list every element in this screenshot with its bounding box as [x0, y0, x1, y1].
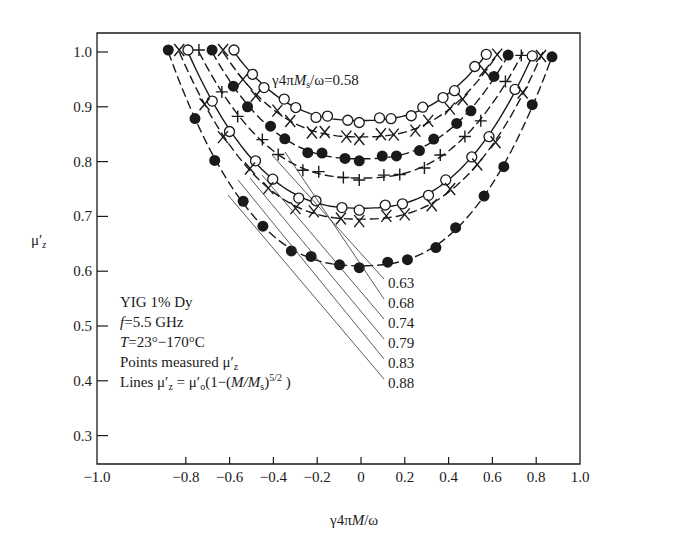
leader-line — [272, 155, 384, 279]
data-point — [492, 49, 502, 61]
data-point — [481, 49, 491, 59]
data-point — [163, 45, 174, 56]
data-point — [216, 86, 228, 98]
data-point — [418, 102, 428, 112]
data-point — [193, 44, 205, 56]
data-point — [354, 215, 364, 227]
data-point — [307, 127, 317, 139]
data-point — [503, 50, 514, 61]
data-point — [229, 45, 239, 55]
data-point — [263, 182, 273, 194]
data-point — [334, 259, 345, 270]
data-point — [430, 242, 441, 253]
data-point — [224, 127, 234, 137]
data-point — [354, 117, 364, 127]
data-point — [488, 71, 499, 82]
data-point — [391, 150, 402, 161]
x-tick-label: 0.6 — [483, 469, 502, 485]
x-axis-ticks: −1.0−0.8−0.6−0.4−0.200.20.40.60.81.0 — [83, 457, 589, 485]
data-point — [285, 115, 295, 127]
data-point — [423, 115, 433, 127]
data-point — [465, 105, 476, 116]
data-point — [406, 111, 416, 121]
data-point — [527, 51, 537, 61]
y-axis-label: μ′z — [31, 232, 46, 250]
x-tick-label: 1.0 — [571, 469, 590, 485]
y-tick-label: 0.5 — [73, 318, 92, 334]
data-point — [377, 151, 388, 162]
data-point — [410, 125, 420, 137]
data-point — [376, 128, 386, 140]
data-point — [498, 161, 509, 172]
x-tick-label: 0.2 — [395, 469, 414, 485]
data-point — [302, 147, 313, 158]
data-point — [475, 115, 487, 127]
legend-material: YIG 1% Dy — [120, 294, 193, 310]
data-point — [207, 96, 217, 106]
y-axis-ticks: 0.30.40.50.60.70.80.91.0 — [73, 44, 108, 444]
x-tick-label: −0.6 — [216, 469, 244, 485]
data-point — [378, 169, 390, 181]
x-tick-label: 0.4 — [439, 469, 458, 485]
data-point — [238, 196, 249, 207]
data-point — [375, 113, 385, 123]
leader-label: 0.63 — [388, 275, 414, 291]
legend-temperature: T=23°−170°C — [120, 334, 205, 350]
y-tick-label: 0.3 — [73, 428, 92, 444]
data-point — [467, 152, 477, 162]
x-tick-label: 0 — [357, 469, 365, 485]
data-point — [291, 103, 301, 113]
data-point — [402, 254, 413, 265]
data-point — [479, 191, 490, 202]
data-point — [218, 44, 228, 56]
y-tick-label: 0.8 — [73, 154, 92, 170]
data-point — [445, 103, 455, 115]
data-point — [265, 121, 276, 132]
data-point — [309, 205, 319, 217]
data-point — [484, 132, 494, 142]
curve-0.68 — [212, 52, 510, 159]
data-point — [337, 203, 347, 213]
data-point — [354, 133, 364, 145]
data-point — [458, 93, 468, 105]
leader-label: 0.83 — [388, 355, 414, 371]
data-point — [491, 136, 501, 148]
data-point — [322, 111, 332, 121]
data-point — [247, 69, 257, 79]
x-tick-label: −0.2 — [304, 469, 331, 485]
data-point — [242, 101, 253, 112]
data-point — [245, 162, 255, 174]
data-point — [297, 164, 309, 176]
data-point — [380, 200, 390, 210]
data-point — [438, 93, 448, 103]
data-point — [279, 133, 290, 144]
data-point — [451, 118, 462, 129]
data-point — [340, 153, 351, 164]
legend-points: Points measured μ′z — [120, 354, 239, 372]
data-point — [386, 114, 396, 124]
data-point — [450, 222, 461, 233]
data-point — [479, 65, 489, 77]
x-tick-label: −0.8 — [172, 469, 199, 485]
data-point — [400, 208, 410, 220]
y-tick-label: 0.4 — [73, 373, 92, 389]
data-point — [472, 158, 482, 170]
y-tick-label: 0.6 — [73, 263, 92, 279]
data-point — [218, 131, 228, 143]
data-point — [256, 134, 268, 146]
data-point — [515, 49, 527, 61]
plot-frame — [97, 33, 580, 464]
data-point — [343, 115, 353, 125]
leader-label: 0.68 — [388, 295, 414, 311]
data-point — [546, 51, 557, 62]
leader-line — [262, 175, 384, 319]
data-point — [434, 149, 446, 161]
data-point — [320, 126, 330, 138]
data-point — [238, 73, 248, 85]
leader-labels: 0.630.680.740.790.830.88 — [388, 275, 415, 391]
data-point — [382, 257, 393, 268]
data-point — [272, 149, 284, 161]
x-tick-label: −1.0 — [83, 469, 110, 485]
data-point — [394, 169, 406, 181]
legend-lines-formula: Lines μ′z = μ′o(1−(M/Ms)5/2 ) — [120, 372, 291, 392]
